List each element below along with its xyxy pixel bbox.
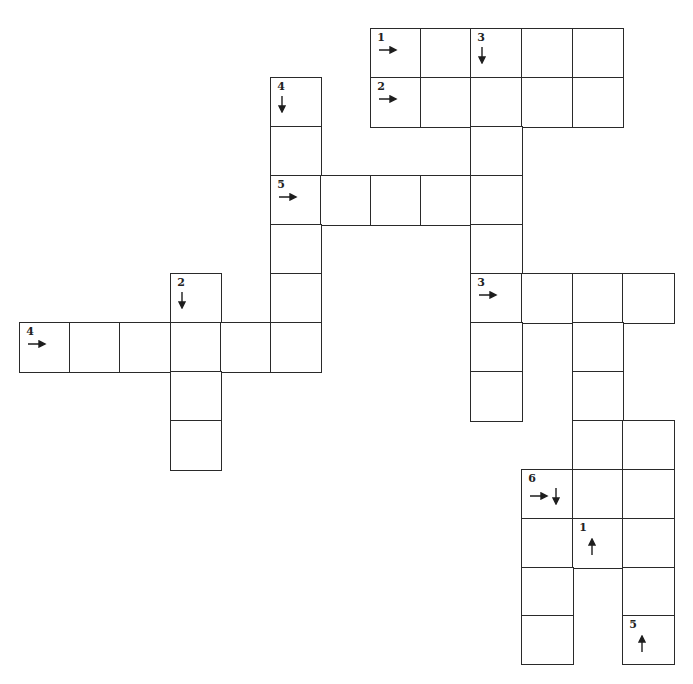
arrow-right-icon: [478, 291, 498, 299]
direction-arrows: [178, 291, 186, 309]
direction-arrows: [478, 291, 498, 299]
direction-arrows: [27, 340, 47, 348]
clue-number: 1: [579, 522, 587, 534]
clue-start-cell-3[interactable]: 3: [470, 273, 523, 324]
clue-start-cell-5[interactable]: 5: [622, 615, 675, 665]
arrow-down-icon: [278, 95, 286, 113]
clue-start-cell-2[interactable]: 2: [370, 77, 422, 128]
grid-cell[interactable]: [521, 77, 574, 128]
arrow-right-icon: [27, 340, 47, 348]
clue-number: 6: [528, 473, 536, 485]
clue-start-cell-2[interactable]: 2: [170, 273, 222, 324]
clue-start-cell-1[interactable]: 1: [370, 28, 422, 79]
grid-cell[interactable]: [119, 322, 172, 373]
direction-arrows: [278, 193, 298, 201]
grid-cell[interactable]: [572, 322, 624, 373]
grid-cell[interactable]: [420, 175, 472, 226]
grid-cell[interactable]: [622, 567, 675, 617]
arrow-down-icon: [478, 46, 486, 64]
arrow-right-icon: [378, 46, 398, 54]
grid-cell[interactable]: [170, 322, 222, 373]
grid-cell[interactable]: [270, 322, 322, 373]
grid-cell[interactable]: [572, 273, 624, 324]
arrow-right-icon: [278, 193, 298, 201]
grid-cell[interactable]: [170, 420, 222, 471]
grid-cell[interactable]: [521, 615, 574, 665]
grid-cell[interactable]: [622, 469, 675, 520]
direction-arrows: [478, 46, 486, 64]
direction-arrows: [378, 95, 398, 103]
direction-arrows: [378, 46, 398, 54]
grid-cell[interactable]: [420, 28, 472, 79]
crossword-grid: 13425234615: [0, 0, 693, 684]
clue-number: 5: [629, 619, 637, 631]
grid-cell[interactable]: [622, 420, 675, 471]
arrow-right-icon: [378, 95, 398, 103]
grid-cell[interactable]: [270, 224, 322, 275]
arrow-right-icon: [529, 492, 549, 500]
clue-start-cell-4[interactable]: 4: [19, 322, 71, 373]
clue-number: 5: [277, 179, 285, 191]
clue-number: 2: [177, 277, 185, 289]
clue-number: 4: [277, 81, 285, 93]
grid-cell[interactable]: [170, 371, 222, 422]
direction-arrows: [278, 95, 286, 113]
clue-number: 1: [377, 32, 385, 44]
grid-cell[interactable]: [470, 126, 523, 177]
grid-cell[interactable]: [370, 175, 422, 226]
clue-number: 3: [477, 277, 485, 289]
clue-number: 2: [377, 81, 385, 93]
grid-cell[interactable]: [320, 175, 372, 226]
grid-cell[interactable]: [470, 322, 523, 373]
clue-start-cell-1[interactable]: 1: [572, 518, 624, 569]
direction-arrows: [588, 538, 596, 556]
grid-cell[interactable]: [470, 77, 523, 128]
arrow-up-icon: [588, 538, 596, 556]
grid-cell[interactable]: [470, 224, 523, 275]
grid-cell[interactable]: [470, 371, 523, 422]
grid-cell[interactable]: [420, 77, 472, 128]
grid-cell[interactable]: [521, 28, 574, 79]
grid-cell[interactable]: [572, 28, 624, 79]
clue-start-cell-6[interactable]: 6: [521, 469, 574, 520]
grid-cell[interactable]: [572, 77, 624, 128]
grid-cell[interactable]: [270, 126, 322, 177]
arrow-down-icon: [552, 487, 560, 505]
grid-cell[interactable]: [572, 420, 624, 471]
clue-number: 3: [477, 32, 485, 44]
clue-start-cell-3[interactable]: 3: [470, 28, 523, 79]
clue-start-cell-5[interactable]: 5: [270, 175, 322, 226]
grid-cell[interactable]: [572, 469, 624, 520]
grid-cell[interactable]: [521, 273, 574, 324]
grid-cell[interactable]: [622, 518, 675, 569]
grid-cell[interactable]: [220, 322, 272, 373]
grid-cell[interactable]: [521, 518, 574, 569]
clue-start-cell-4[interactable]: 4: [270, 77, 322, 128]
grid-cell[interactable]: [470, 175, 523, 226]
grid-cell[interactable]: [69, 322, 121, 373]
grid-cell[interactable]: [270, 273, 322, 324]
clue-number: 4: [26, 326, 34, 338]
arrow-up-icon: [638, 635, 646, 653]
grid-cell[interactable]: [521, 567, 574, 617]
direction-arrows: [638, 635, 646, 653]
grid-cell[interactable]: [622, 273, 675, 324]
arrow-down-icon: [178, 291, 186, 309]
direction-arrows: [529, 487, 560, 505]
grid-cell[interactable]: [572, 371, 624, 422]
